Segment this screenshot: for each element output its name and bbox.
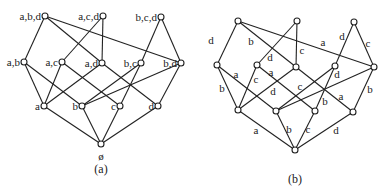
node-empty [98,141,104,147]
node-label-ac: a,c [45,56,58,68]
edge-label-acd-ad: c [300,44,305,56]
node-d [155,103,161,109]
edge-acd-ac [62,16,103,62]
node-a [41,103,47,109]
node-acd [294,18,300,24]
node-c [312,108,318,114]
node-label-c: c [111,100,116,112]
node-bcd [158,14,164,20]
node-label-b: b [73,100,79,112]
edge-acd-ac [257,21,297,65]
edge-label-c-empty: c [306,123,311,135]
node-abd [235,18,241,24]
node-label-empty: ø [98,150,104,162]
node-b [79,103,85,109]
node-bcd [351,19,357,25]
node-bd [371,64,377,70]
edge-bcd-bd [354,22,374,67]
edge-label-a-empty: a [254,124,259,136]
node-abd [42,13,48,19]
edge-acd-ad [296,21,297,67]
edge-label-bcd-bc: d [339,30,345,42]
lattice-diagrams: a,b,da,c,db,c,da,ba,ca,db,cb,dabcdø dbad… [0,0,378,186]
node-ab [21,59,27,65]
edge-label-ac-a: c [254,73,259,85]
node-label-ad: a,d [85,57,99,69]
edge-label-bcd-bd: c [366,37,371,49]
node-b [273,108,279,114]
node-label-acd: a,c,d [78,10,99,22]
edge-label-acd-ac: d [267,51,273,63]
edge-label-b-empty: b [286,123,292,135]
edge-abd-ab [217,21,238,65]
node-empty [292,147,298,153]
node-label-bc: b,c [124,57,137,69]
node-a [235,107,241,113]
node-label-a: a [35,100,40,112]
edge-abd-bd [238,21,374,67]
node-ad [293,64,299,70]
edge-label-ac-c: a [269,66,274,78]
edge-label-abd-ad: b [248,35,254,47]
node-label-abd: a,b,d [20,10,42,22]
caption-b: (b) [288,172,302,186]
edge-label-bc-c: b [322,95,328,107]
edge-label-ad-a: d [270,85,276,97]
edge-label-abd-bd: a [321,36,326,48]
node-label-bcd: b,c,d [136,11,158,23]
edge-bcd-bc [141,17,161,63]
node-bc [138,60,144,66]
diagram-a: a,b,da,c,db,c,da,ba,ca,db,cb,dabcdø [7,10,184,162]
edge-d-empty [295,112,353,150]
edge-label-ab-b: a [234,68,239,80]
edge-label-ad-d: a [339,90,344,102]
edge-label-abd-ab: d [208,34,214,46]
edge-label-bc-b: c [298,80,303,92]
node-ac [59,59,65,65]
edge-label-bd-d: b [367,83,373,95]
edge-bd-d [158,63,181,106]
node-bd [178,60,184,66]
node-label-ab: a,b [7,56,21,68]
node-bc [332,63,338,69]
edge-ab-a [24,62,44,106]
edge-abd-ab [24,16,45,62]
node-label-bd: b,d [163,57,177,69]
edge-acd-ad [102,16,103,63]
node-c [117,103,123,109]
node-d [350,109,356,115]
node-ac [254,62,260,68]
edge-label-ab-a: b [219,82,225,94]
diagram-b: dbadcdcbacadacbdbabcd [208,18,377,153]
node-ab [214,62,220,68]
caption-a: (a) [94,162,107,176]
node-label-d: d [149,100,155,112]
node-acd [100,13,106,19]
node-ad [99,60,105,66]
edge-label-d-empty: d [333,124,339,136]
edge-abd-bd [45,16,181,63]
